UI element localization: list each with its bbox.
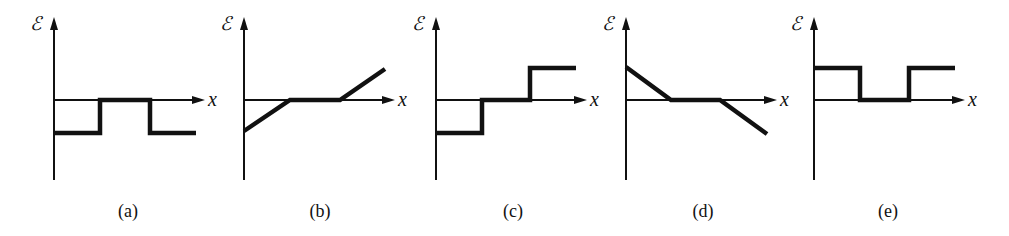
- x-axis-arrow-icon: [382, 96, 395, 104]
- panel-label: (e): [878, 201, 898, 222]
- panel-e: ℰx(e): [790, 12, 977, 222]
- panel-c: ℰx(c): [412, 12, 599, 222]
- y-axis-arrow-icon: [432, 17, 440, 30]
- x-axis-arrow-icon: [574, 96, 587, 104]
- panel-a: ℰx(a): [30, 12, 217, 222]
- x-axis-label: x: [397, 88, 407, 110]
- panel-label: (b): [310, 201, 331, 222]
- x-axis-arrow-icon: [192, 96, 205, 104]
- x-axis-label: x: [589, 88, 599, 110]
- panel-label: (a): [118, 201, 138, 222]
- x-axis-arrow-icon: [764, 96, 777, 104]
- field-curve: [814, 68, 955, 100]
- y-axis-arrow-icon: [50, 17, 58, 30]
- y-axis-arrow-icon: [810, 17, 818, 30]
- y-axis-arrow-icon: [240, 17, 248, 30]
- y-axis-label: ℰ: [412, 12, 426, 34]
- panel-label: (c): [503, 201, 523, 222]
- x-axis-label: x: [779, 88, 789, 110]
- y-axis-arrow-icon: [622, 17, 630, 30]
- y-axis-label: ℰ: [220, 12, 234, 34]
- x-axis-label: x: [207, 88, 217, 110]
- field-curve: [54, 100, 196, 133]
- field-vs-position-figure: ℰx(a)ℰx(b)ℰx(c)ℰx(d)ℰx(e): [0, 0, 1009, 236]
- x-axis-arrow-icon: [952, 96, 965, 104]
- panel-label: (d): [693, 201, 714, 222]
- x-axis-label: x: [967, 88, 977, 110]
- y-axis-label: ℰ: [30, 12, 44, 34]
- panel-d: ℰx(d): [602, 12, 789, 222]
- panel-b: ℰx(b): [220, 12, 407, 222]
- y-axis-label: ℰ: [790, 12, 804, 34]
- y-axis-label: ℰ: [602, 12, 616, 34]
